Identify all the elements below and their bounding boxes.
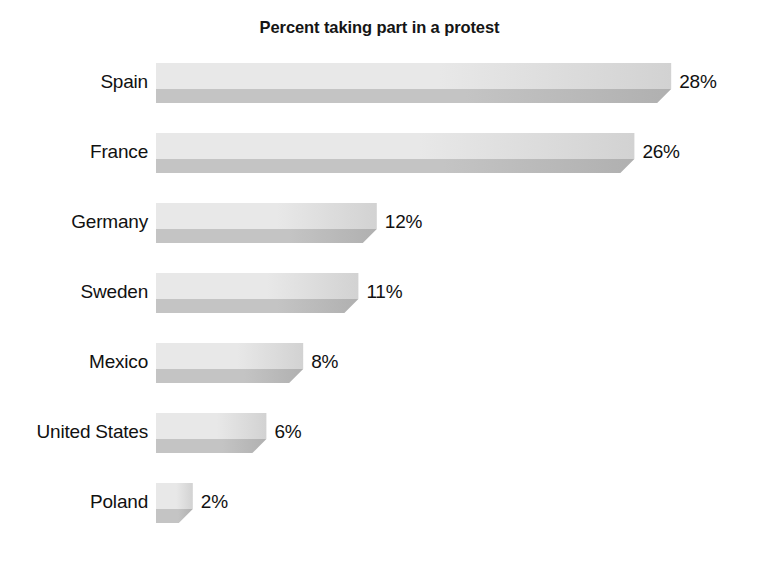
bar-depth-face: [156, 89, 671, 103]
value-label: 2%: [201, 491, 228, 513]
bar-united-states[interactable]: [156, 413, 270, 459]
bar-depth-face: [156, 509, 193, 523]
value-label: 26%: [642, 141, 679, 163]
value-label: 8%: [311, 351, 338, 373]
category-label: Mexico: [0, 351, 148, 373]
bar-top-face: [156, 483, 193, 509]
bar-france[interactable]: [156, 133, 638, 179]
bar-row: Mexico8%: [0, 335, 759, 405]
bar-top-face: [156, 133, 634, 159]
bar-depth-face: [156, 159, 634, 173]
bar-top-face: [156, 63, 671, 89]
category-label: Sweden: [0, 281, 148, 303]
bar-mexico[interactable]: [156, 343, 307, 389]
category-label: France: [0, 141, 148, 163]
bar-row: Germany12%: [0, 195, 759, 265]
plot-area: Spain28%France26%Germany12%Sweden11%Mexi…: [0, 0, 759, 580]
bar-top-face: [156, 413, 266, 439]
bar-depth-face: [156, 369, 303, 383]
bar-sweden[interactable]: [156, 273, 362, 319]
bar-row: United States6%: [0, 405, 759, 475]
bar-poland[interactable]: [156, 483, 197, 529]
category-label: Germany: [0, 211, 148, 233]
bar-top-face: [156, 273, 358, 299]
value-label: 28%: [679, 71, 716, 93]
bar-top-face: [156, 343, 303, 369]
bar-row: Poland2%: [0, 475, 759, 545]
category-label: Poland: [0, 491, 148, 513]
bar-row: France26%: [0, 125, 759, 195]
bar-row: Spain28%: [0, 55, 759, 125]
bar-row: Sweden11%: [0, 265, 759, 335]
category-label: Spain: [0, 71, 148, 93]
value-label: 12%: [385, 211, 422, 233]
bar-germany[interactable]: [156, 203, 381, 249]
bar-depth-face: [156, 439, 266, 453]
value-label: 11%: [366, 281, 402, 303]
bar-depth-face: [156, 229, 377, 243]
bar-depth-face: [156, 299, 358, 313]
bar-spain[interactable]: [156, 63, 675, 109]
bar-top-face: [156, 203, 377, 229]
category-label: United States: [0, 421, 148, 443]
value-label: 6%: [274, 421, 301, 443]
chart-container: Percent taking part in a protest Spain28…: [0, 0, 759, 580]
